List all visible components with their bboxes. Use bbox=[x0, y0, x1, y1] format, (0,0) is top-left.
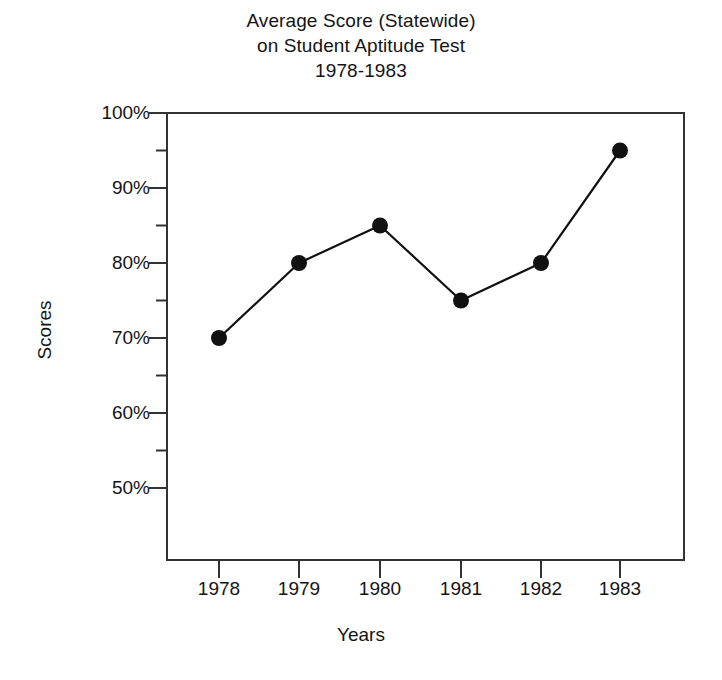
data-markers bbox=[211, 143, 628, 347]
data-point-1980 bbox=[372, 218, 388, 234]
data-point-1983 bbox=[612, 143, 628, 159]
x-axis-ticks bbox=[219, 560, 620, 578]
data-line bbox=[219, 151, 620, 339]
y-axis-ticks bbox=[149, 113, 167, 488]
plot-frame bbox=[167, 113, 684, 560]
data-point-1982 bbox=[533, 255, 549, 271]
data-point-1979 bbox=[291, 255, 307, 271]
plot-area bbox=[0, 0, 722, 680]
chart-figure: Average Score (Statewide) on Student Apt… bbox=[0, 0, 722, 680]
data-point-1978 bbox=[211, 330, 227, 346]
data-point-1981 bbox=[453, 293, 469, 309]
